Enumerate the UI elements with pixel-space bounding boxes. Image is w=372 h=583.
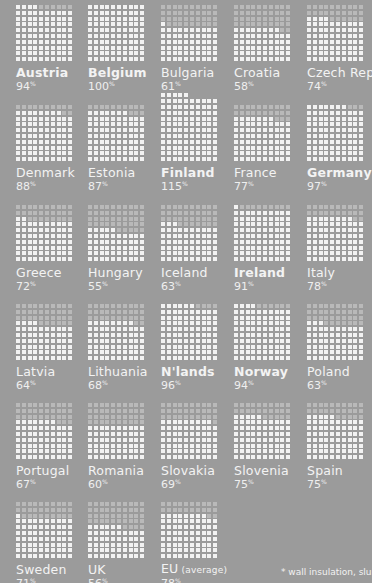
dot [22,146,26,150]
dot [280,122,284,126]
dot [348,333,352,337]
dot [161,128,165,132]
dot [105,234,109,238]
dot [123,519,127,523]
dot [117,57,121,61]
dot [246,111,250,115]
dot [57,111,61,115]
dot [324,234,328,238]
dot [140,438,144,442]
dot [22,5,26,9]
dot [28,415,32,419]
dot [33,304,37,308]
dot-grid [234,205,292,263]
dot [251,432,255,436]
dot [246,40,250,44]
dot [202,531,206,535]
dot [330,420,334,424]
dot [190,449,194,453]
dot [33,415,37,419]
dot [33,34,37,38]
dot [88,228,92,232]
country-value: 71% [16,577,36,583]
dot [190,151,194,155]
dot [348,240,352,244]
dot [319,449,323,453]
dot [246,22,250,26]
dot [88,51,92,55]
country-value-number: 55 [88,280,102,293]
dot [234,40,238,44]
dot [324,251,328,255]
dot [134,17,138,21]
dot [246,211,250,215]
dot [342,117,346,121]
dot [167,251,171,255]
dot [123,420,127,424]
dot [111,345,115,349]
country-value-number: 61 [161,80,175,93]
dot [342,304,346,308]
dot [330,146,334,150]
country-value: 78% [161,577,181,583]
dot [330,415,334,419]
dot [246,28,250,32]
dot [167,508,171,512]
dot [280,46,284,50]
dot [353,40,357,44]
dot [313,205,317,209]
dot [251,339,255,343]
dot [173,339,177,343]
dot [240,117,244,121]
dot [94,339,98,343]
dot [240,350,244,354]
dot [45,525,49,529]
dot [269,350,273,354]
dot [324,333,328,337]
dot [88,449,92,453]
dot [94,22,98,26]
dot [100,415,104,419]
dot [88,438,92,442]
dot [359,51,363,55]
dot [286,432,290,436]
dot [62,537,66,541]
country-value: 75% [307,478,327,491]
dot [280,327,284,331]
dot [100,356,104,360]
dot [213,426,217,430]
dot [246,310,250,314]
dot [190,438,194,442]
dot [240,327,244,331]
dot [178,426,182,430]
dot [246,356,250,360]
dot [307,122,311,126]
dot [196,409,200,413]
dot [269,438,273,442]
dot [173,111,177,115]
dot [178,111,182,115]
dot [173,537,177,541]
dot [257,128,261,132]
dot [190,531,194,535]
dot [39,34,43,38]
dot [213,432,217,436]
dot [62,502,66,506]
dot [16,508,20,512]
dot [68,57,72,61]
dot [105,40,109,44]
dot [324,257,328,261]
dot [246,444,250,448]
dot [28,11,32,15]
dot [16,46,20,50]
dot [62,548,66,552]
dot [123,426,127,430]
dot [213,455,217,459]
dot [178,327,182,331]
dot [263,333,267,337]
dot [246,128,250,132]
dot [342,222,346,226]
dot [167,502,171,506]
dot [161,455,165,459]
country-value: 69% [161,478,181,491]
